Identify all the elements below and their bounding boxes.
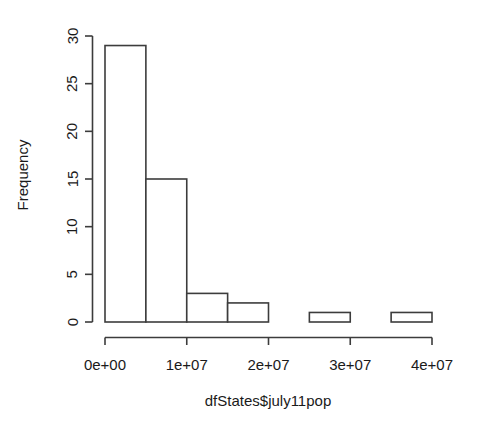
x-tick-label: 0e+00 [84,356,126,373]
histogram-plot: 051015202530 0e+001e+072e+073e+074e+07 F… [0,0,477,430]
x-tick-label: 3e+07 [329,356,371,373]
y-axis-title: Frequency [14,139,31,210]
histogram-bar [146,179,187,322]
plot-title-clipped [0,0,477,7]
x-axis-title: dfStates$july11pop [205,392,331,409]
y-tick-labels: 051015202530 [64,28,81,327]
y-tick-label: 10 [64,218,81,235]
x-tick-label: 2e+07 [247,356,289,373]
y-tick-label: 15 [64,171,81,188]
x-tick-labels: 0e+001e+072e+073e+074e+07 [84,356,453,373]
histogram-bar [187,293,228,322]
y-tick-label: 25 [64,75,81,92]
histogram-bar [309,312,350,322]
histogram-bar [105,46,146,322]
y-tick-marks [85,36,93,322]
y-tick-label: 30 [64,28,81,45]
x-tick-label: 1e+07 [166,356,208,373]
histogram-bar [228,303,269,322]
y-tick-label: 5 [64,270,81,278]
chart-canvas: 051015202530 0e+001e+072e+073e+074e+07 F… [0,0,477,430]
bars-group [105,46,432,322]
y-axis [85,36,93,322]
x-tick-marks [105,338,432,346]
y-tick-label: 0 [64,318,81,326]
x-axis [105,338,432,346]
histogram-bar [391,312,432,322]
y-tick-label: 20 [64,123,81,140]
x-tick-label: 4e+07 [411,356,453,373]
